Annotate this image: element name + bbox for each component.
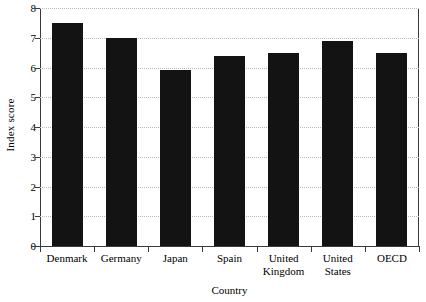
y-axis-tick-mark <box>35 97 40 98</box>
y-axis-tick-mark <box>35 157 40 158</box>
x-axis-tick-label-line: States <box>311 265 365 278</box>
y-axis-tick-label: 2 <box>18 181 36 192</box>
y-axis-tick-mark <box>35 38 40 39</box>
x-axis-tick-mark <box>365 247 366 252</box>
y-axis-tick-label: 5 <box>18 92 36 103</box>
x-axis-tick-label: OECD <box>365 252 419 265</box>
x-axis-tick-label: Germany <box>94 252 148 265</box>
bar <box>106 38 137 246</box>
y-axis-title: Index score <box>0 0 20 250</box>
y-axis-tick-mark <box>35 68 40 69</box>
x-axis-tick-mark <box>94 247 95 252</box>
x-axis-tick-mark <box>419 247 420 252</box>
x-axis-tick-label: Denmark <box>40 252 94 265</box>
y-axis-title-text: Index score <box>4 98 16 151</box>
x-axis-tick-mark <box>311 247 312 252</box>
y-axis-tick-label: 8 <box>18 3 36 14</box>
x-axis-tick-label-line: United <box>323 252 353 264</box>
bars-layer <box>40 8 419 246</box>
bar-chart: Index score 012345678 DenmarkGermanyJapa… <box>0 0 426 302</box>
bar <box>376 53 407 246</box>
y-axis-tick-label: 4 <box>18 122 36 133</box>
x-axis-tick-label: Japan <box>148 252 202 265</box>
x-axis-tick-label-line: United <box>269 252 299 264</box>
y-axis-tick-label: 1 <box>18 211 36 222</box>
x-axis-tick-mark <box>40 247 41 252</box>
y-axis-tick-mark <box>35 127 40 128</box>
bar <box>52 23 83 246</box>
x-axis-tick-labels: DenmarkGermanyJapanSpainUnitedKingdomUni… <box>40 252 419 286</box>
bar <box>160 70 191 246</box>
y-axis-tick-label: 3 <box>18 151 36 162</box>
y-axis-tick-mark <box>35 216 40 217</box>
y-axis-tick-label: 6 <box>18 62 36 73</box>
x-axis-tick-mark <box>257 247 258 252</box>
bar <box>268 53 299 246</box>
x-axis-tick-label: UnitedKingdom <box>257 252 311 278</box>
x-axis-tick-mark <box>148 247 149 252</box>
x-axis-tick-mark <box>202 247 203 252</box>
y-axis-tick-label: 7 <box>18 32 36 43</box>
x-axis-title: Country <box>40 284 419 296</box>
bar <box>214 56 245 246</box>
y-axis-tick-labels: 012345678 <box>18 0 36 302</box>
x-axis-line <box>32 246 420 247</box>
x-axis-tick-label-line: Kingdom <box>257 265 311 278</box>
x-axis-tick-label: UnitedStates <box>311 252 365 278</box>
y-axis-tick-mark <box>35 187 40 188</box>
y-axis-tick-mark <box>35 8 40 9</box>
bar <box>322 41 353 246</box>
x-axis-tick-label: Spain <box>202 252 256 265</box>
